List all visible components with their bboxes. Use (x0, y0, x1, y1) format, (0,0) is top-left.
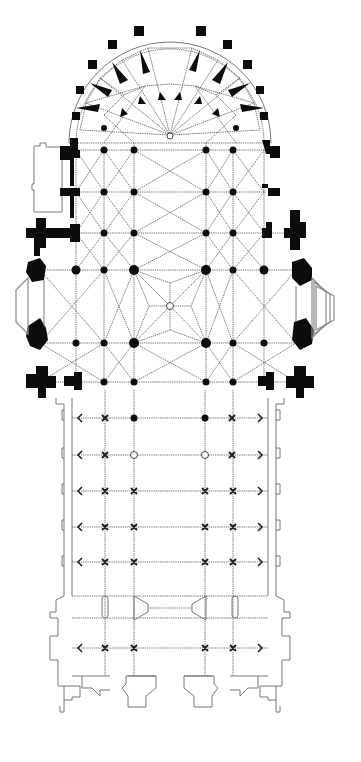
nave-rib-grid (72, 390, 268, 676)
apse (69, 26, 271, 143)
nave-cross-markers (102, 415, 236, 651)
cathedral-floor-plan (0, 0, 361, 762)
nave-piers (131, 415, 209, 459)
south-octagon-chapel (312, 278, 334, 338)
crossing-keystone (167, 303, 174, 310)
nave-outline (50, 398, 290, 712)
north-octagon-chapel (16, 278, 28, 334)
north-annex (32, 143, 62, 212)
aisle-wall-chevrons (78, 414, 262, 652)
